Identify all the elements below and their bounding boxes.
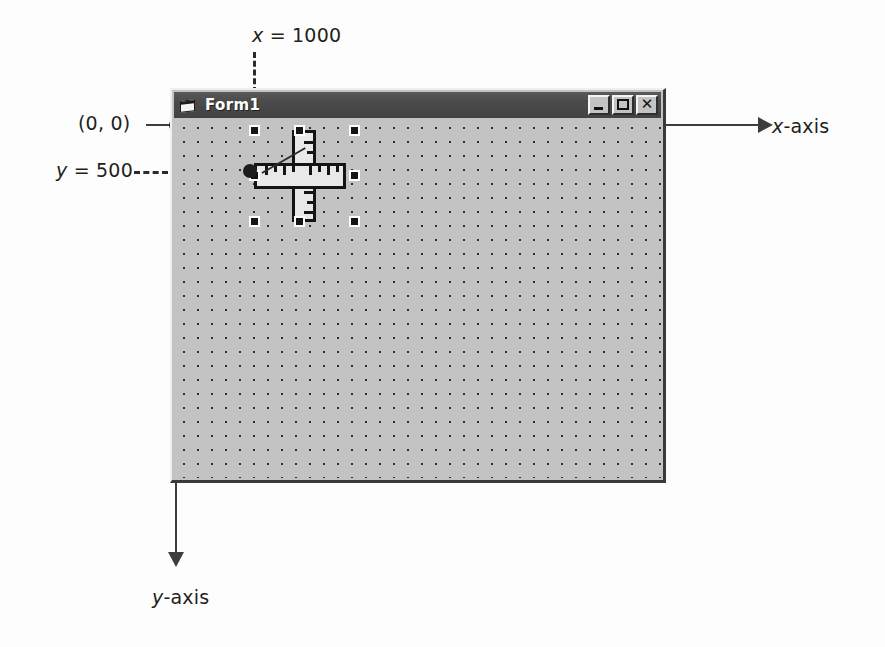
label-y-var: y <box>56 159 67 181</box>
point-marker-1000-500 <box>243 164 257 178</box>
form-document-icon <box>180 98 197 113</box>
label-origin: (0, 0) <box>78 114 130 133</box>
selection-handle[interactable] <box>249 216 260 227</box>
y-axis-arrowhead <box>168 552 184 567</box>
label-x-value: = 1000 <box>263 24 341 46</box>
label-x-axis: x-axis <box>772 117 829 136</box>
window-buttons: ✕ <box>588 95 658 115</box>
label-x-var: x <box>252 24 263 46</box>
form-window[interactable]: Form1 ✕ <box>170 88 666 483</box>
label-y-axis-var: y <box>152 586 163 608</box>
selection-handle[interactable] <box>349 170 360 181</box>
label-y-500: y = 500 <box>56 161 133 180</box>
ruler-horizontal-bar <box>254 163 346 189</box>
selection-handle[interactable] <box>294 216 305 227</box>
title-bar[interactable]: Form1 ✕ <box>174 92 661 118</box>
form-title: Form1 <box>205 96 260 114</box>
label-y-value: = 500 <box>67 159 132 181</box>
selection-handle[interactable] <box>294 125 305 136</box>
minimize-button[interactable] <box>588 95 610 115</box>
x-axis-arrowhead <box>758 117 773 133</box>
label-x-axis-rest: -axis <box>783 115 829 137</box>
selection-handle[interactable] <box>349 125 360 136</box>
diagram-canvas: x = 1000 (0, 0) y = 500 (1000, 500) x-ax… <box>0 0 885 647</box>
label-y-axis-rest: -axis <box>163 586 209 608</box>
label-x-axis-var: x <box>772 115 783 137</box>
label-y-axis: y-axis <box>152 588 209 607</box>
selection-handle[interactable] <box>249 125 260 136</box>
close-icon: ✕ <box>641 97 654 112</box>
maximize-button[interactable] <box>612 95 634 115</box>
ruler-control[interactable] <box>254 130 346 222</box>
label-x-1000: x = 1000 <box>252 26 341 45</box>
close-button[interactable]: ✕ <box>636 95 658 115</box>
selection-handle[interactable] <box>349 216 360 227</box>
